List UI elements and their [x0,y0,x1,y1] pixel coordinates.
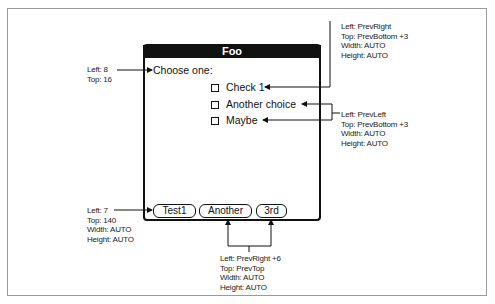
annotation-first-button: Left: 7 Top: 140 Width: AUTO Height: AUT… [87,206,134,244]
annotation-label-position: Left: 8 Top: 16 [87,65,112,84]
annotation-other-buttons: Left: PrevRight +6 Top: PrevTop Width: A… [220,254,281,292]
annotation-first-checkbox: Left: PrevRight Top: PrevBottom +3 Width… [341,22,408,60]
annotation-other-checkboxes: Left: PrevLeft Top: PrevBottom +3 Width:… [341,110,408,148]
